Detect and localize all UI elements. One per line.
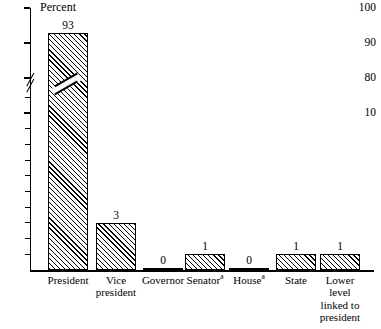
y-axis-minor-tick <box>25 191 30 192</box>
x-axis-label-line: linked to <box>296 299 381 311</box>
y-axis-minor-tick <box>25 222 30 223</box>
y-axis-break-icon <box>22 74 40 94</box>
bar-house <box>229 268 269 271</box>
x-axis-label-line: president <box>72 286 160 298</box>
y-axis-minor-tick <box>25 144 30 145</box>
y-axis-tick-label-10: 10 <box>354 107 376 119</box>
bar-value-senator: 1 <box>180 240 230 252</box>
bar-governor <box>143 268 183 271</box>
y-axis-minor-tick <box>25 175 30 176</box>
y-axis-minor-tick <box>25 238 30 239</box>
y-axis-tick-mark <box>24 112 30 113</box>
bar-value-lower-level: 1 <box>315 240 365 252</box>
bar-senator <box>185 254 225 270</box>
y-axis-minor-tick <box>25 128 30 129</box>
bar-value-governor: 0 <box>138 254 188 266</box>
bar-value-state: 1 <box>271 240 321 252</box>
y-axis-tick-mark <box>24 42 30 43</box>
bar-value-house: 0 <box>224 254 274 266</box>
x-axis-label-line: level <box>296 286 381 298</box>
x-axis-label-line: president <box>296 311 381 323</box>
x-axis-line <box>30 270 374 272</box>
bar-state <box>276 254 316 270</box>
bar-value-vice-president: 3 <box>91 209 141 221</box>
y-axis-tick-label-90: 90 <box>354 37 376 49</box>
y-axis-title: Percent <box>40 1 76 14</box>
y-axis-minor-tick <box>25 254 30 255</box>
y-axis-minor-tick <box>25 97 30 98</box>
bar-lower-level <box>320 254 360 270</box>
x-axis-label-line: Lower <box>296 274 381 286</box>
y-axis-tick-label-80: 80 <box>354 72 376 84</box>
y-axis-minor-tick <box>25 160 30 161</box>
x-axis-label-lower-level: Lowerlevellinked topresident <box>296 274 381 324</box>
y-axis-minor-tick <box>25 207 30 208</box>
bar-value-president: 93 <box>43 19 93 31</box>
y-axis-tick-mark <box>24 7 30 8</box>
bar-vice-president <box>96 223 136 270</box>
bar-president <box>48 33 88 271</box>
y-axis-line <box>30 8 31 271</box>
y-axis-tick-label-100: 100 <box>354 2 376 14</box>
